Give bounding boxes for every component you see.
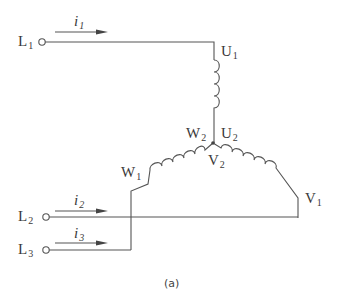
coil-u	[214, 60, 219, 143]
circuit-wiring	[0, 0, 341, 304]
label-l1: L1	[18, 34, 33, 51]
neutral-point-icon	[211, 141, 215, 145]
label-i3: i3	[74, 226, 84, 243]
label-v2: V2	[208, 153, 225, 170]
label-i2: i2	[74, 193, 84, 210]
circuit-diagram: L1 L2 L3 i1 i2 i3 U1 W2 U2 V2 W1 V1 (a)	[0, 0, 341, 304]
label-u1: U1	[221, 44, 238, 61]
label-v1: V1	[305, 191, 322, 208]
terminal-l1-icon	[39, 39, 45, 45]
label-i1: i1	[74, 14, 84, 31]
label-l2: L2	[18, 209, 33, 226]
wire-l1	[45, 42, 214, 60]
label-w2: W2	[186, 126, 206, 143]
coil-v	[213, 143, 298, 218]
figure-caption: (a)	[164, 277, 179, 290]
coil-w	[131, 143, 213, 250]
label-w1: W1	[121, 165, 141, 182]
terminal-l2-icon	[43, 214, 49, 220]
label-u2: U2	[221, 126, 238, 143]
terminal-l3-icon	[43, 247, 49, 253]
label-l3: L3	[18, 242, 33, 259]
